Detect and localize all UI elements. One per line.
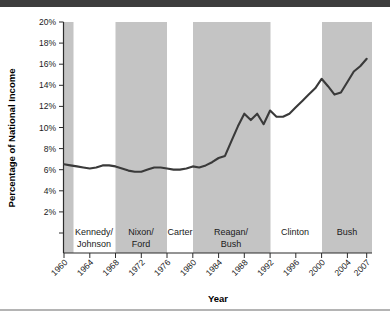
x-axis-ticks bbox=[64, 253, 367, 258]
presidential-term-bands bbox=[64, 22, 372, 253]
band-label-nixon-ford-line2: Ford bbox=[132, 239, 151, 249]
line-chart: 20% 18% 16% 14% 12% 10% 8% 6% 4% 2% Perc… bbox=[0, 7, 390, 309]
ytick-label: 18% bbox=[39, 38, 56, 48]
ytick-label: 8% bbox=[44, 144, 57, 154]
band-reagan-bush bbox=[193, 22, 271, 253]
xtick-label: 2004 bbox=[332, 257, 353, 278]
xtick-label: 1992 bbox=[255, 257, 276, 278]
band-label-nixon-ford-line1: Nixon/ bbox=[128, 227, 154, 237]
xtick-label: 2000 bbox=[307, 257, 328, 278]
band-label-reagan-bush-line1: Reagan/ bbox=[214, 227, 249, 237]
xtick-label: 1984 bbox=[204, 257, 225, 278]
band-label-reagan-bush-line2: Bush bbox=[221, 239, 242, 249]
band-label-bush: Bush bbox=[337, 227, 358, 237]
xtick-label: 1980 bbox=[178, 257, 199, 278]
xtick-label: 1972 bbox=[126, 257, 147, 278]
x-axis-title: Year bbox=[208, 293, 228, 304]
ytick-label: 6% bbox=[44, 165, 57, 175]
ytick-label: 2% bbox=[44, 207, 57, 217]
ytick-label: 10% bbox=[39, 123, 56, 133]
ytick-label: 14% bbox=[39, 80, 56, 90]
band-bush bbox=[322, 22, 372, 253]
ytick-label: 20% bbox=[39, 17, 56, 27]
xtick-label: 1960 bbox=[49, 257, 70, 278]
xtick-label: 1976 bbox=[152, 257, 173, 278]
xtick-label: 1988 bbox=[229, 257, 250, 278]
band-label-kennedy-johnson-line2: Johnson bbox=[77, 239, 111, 249]
y-axis-tick-labels: 20% 18% 16% 14% 12% 10% 8% 6% 4% 2% bbox=[39, 17, 56, 217]
ytick-label: 4% bbox=[44, 186, 57, 196]
ytick-label: 16% bbox=[39, 59, 56, 69]
band-label-kennedy-johnson-line1: Kennedy/ bbox=[75, 227, 114, 237]
bottom-divider-rule bbox=[0, 309, 390, 311]
y-axis-title: Percentage of National Income bbox=[6, 69, 17, 208]
chart-figure: 20% 18% 16% 14% 12% 10% 8% 6% 4% 2% Perc… bbox=[0, 7, 390, 309]
xtick-label: 2007 bbox=[352, 257, 373, 278]
x-axis-tick-labels: 1960 1964 1968 1972 1976 1980 1984 1988 … bbox=[49, 257, 372, 278]
xtick-label: 1996 bbox=[281, 257, 302, 278]
xtick-label: 1964 bbox=[75, 257, 96, 278]
band-label-carter: Carter bbox=[167, 227, 192, 237]
band-nixon-ford bbox=[116, 22, 168, 253]
band-label-clinton: Clinton bbox=[281, 227, 309, 237]
top-divider-rule bbox=[0, 0, 390, 7]
y-axis-ticks bbox=[59, 22, 64, 233]
xtick-label: 1968 bbox=[100, 257, 121, 278]
band-kennedy-johnson bbox=[64, 22, 74, 253]
ytick-label: 12% bbox=[39, 101, 56, 111]
